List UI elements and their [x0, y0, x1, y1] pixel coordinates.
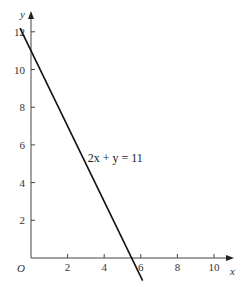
x-tick-label: 4 [101, 261, 107, 273]
x-axis-label: x [229, 265, 235, 277]
x-axis-arrow-icon [226, 255, 234, 261]
y-tick-label: 8 [20, 101, 26, 113]
y-axis-label: y [19, 8, 25, 20]
labels: yxO2x + y = 11 [17, 8, 235, 277]
x-tick-label: 6 [138, 261, 144, 273]
axes [28, 11, 234, 261]
y-axis-arrow-icon [28, 11, 34, 19]
y-tick-label: 6 [20, 139, 26, 151]
equation-label: 2x + y = 11 [88, 151, 143, 165]
x-tick-label: 2 [65, 261, 71, 273]
y-tick-label: 4 [20, 177, 26, 189]
chart: 24681024681012 yxO2x + y = 11 [0, 0, 241, 287]
y-tick-label: 2 [20, 214, 26, 226]
x-tick-label: 10 [209, 261, 221, 273]
x-tick-label: 8 [175, 261, 181, 273]
origin-label: O [17, 262, 25, 274]
ticks: 24681024681012 [14, 26, 220, 273]
y-tick-label: 10 [14, 64, 26, 76]
